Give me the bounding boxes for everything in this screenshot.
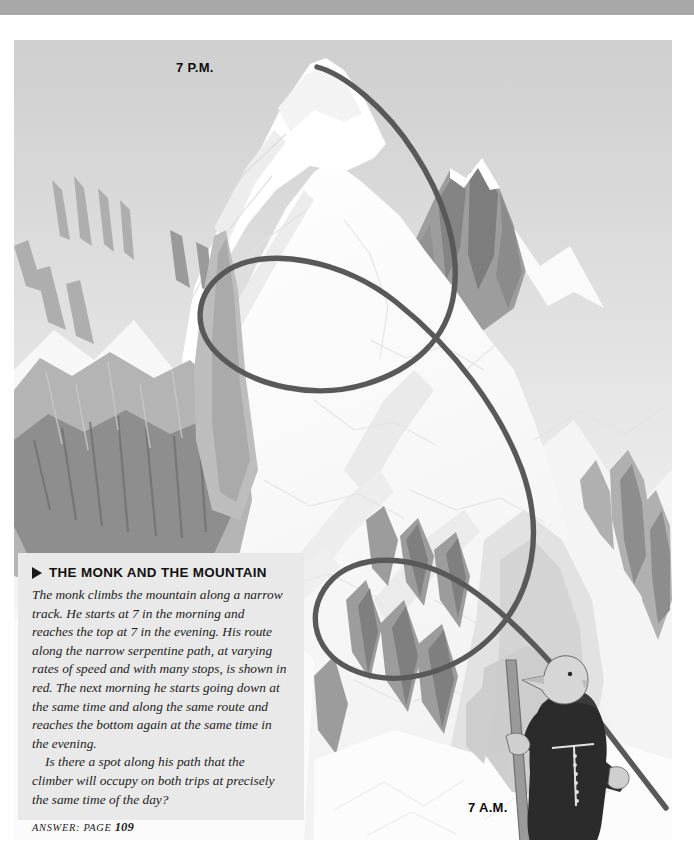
monk-eye: [568, 672, 572, 676]
answer-page-number: 109: [115, 820, 134, 834]
puzzle-title: THE MONK AND THE MOUNTAIN: [49, 565, 267, 580]
base-time-label: 7 A.M.: [468, 800, 508, 815]
page-root: 7 P.M. 7 A.M. THE MONK AND THE MOUNTAIN …: [0, 0, 694, 863]
triangle-right-icon: [32, 567, 42, 579]
answer-reference: ANSWER: PAGE 109: [32, 820, 288, 835]
summit-time-label: 7 P.M.: [176, 60, 214, 75]
monk-right-hand: [608, 767, 629, 789]
puzzle-textbox: THE MONK AND THE MOUNTAIN The monk climb…: [18, 553, 304, 820]
puzzle-paragraph-2: Is there a spot along his path that the …: [32, 753, 288, 809]
puzzle-header: THE MONK AND THE MOUNTAIN: [32, 565, 288, 580]
puzzle-paragraph-1: The monk climbs the mountain along a nar…: [32, 586, 288, 753]
page-top-margin-band: [0, 0, 694, 15]
answer-prefix: ANSWER: PAGE: [32, 822, 111, 833]
